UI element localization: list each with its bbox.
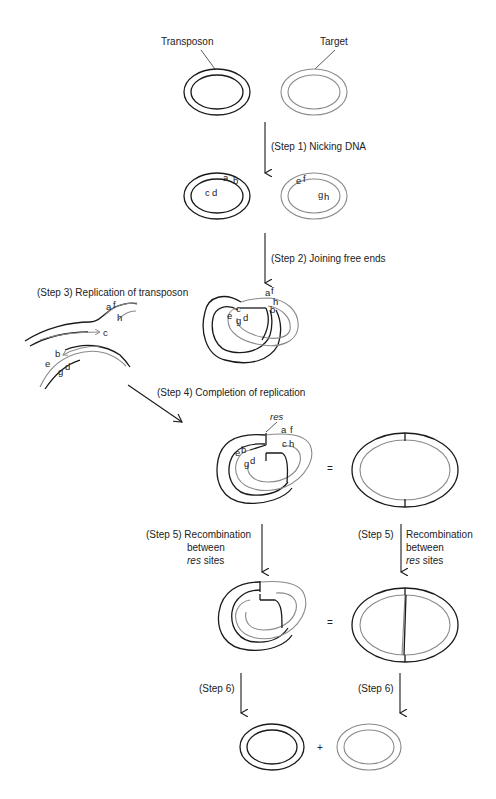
nicked-target: e f g h: [281, 173, 347, 219]
step6-left-label: (Step 6): [199, 683, 235, 694]
svg-text:h: h: [289, 438, 294, 449]
equals-sign-2: =: [327, 617, 333, 628]
svg-text:c: c: [205, 187, 210, 198]
svg-text:b: b: [55, 348, 60, 359]
svg-text:h: h: [324, 191, 329, 202]
recombined-simplified: [352, 588, 458, 662]
transposon-label: Transposon: [161, 36, 213, 47]
product-transposon: [240, 724, 304, 770]
svg-text:res: res: [270, 411, 283, 422]
svg-text:d: d: [250, 455, 255, 466]
svg-text:f: f: [303, 173, 306, 184]
product-target: [337, 724, 401, 770]
nicked-transposon: a b c d: [184, 172, 250, 219]
svg-text:e: e: [227, 310, 232, 321]
step5-right-label-3: between: [406, 542, 444, 553]
replication-fork: a f h c b e g d: [25, 299, 137, 389]
target-label: Target: [320, 36, 348, 47]
svg-text:f: f: [113, 299, 116, 310]
svg-text:d: d: [212, 187, 217, 198]
svg-text:e: e: [45, 358, 50, 369]
svg-text:b: b: [233, 175, 238, 186]
equals-sign-1: =: [327, 463, 333, 474]
recombined-structure: [218, 581, 305, 650]
svg-text:a: a: [223, 172, 229, 183]
step5-right-label-1: (Step 5): [358, 529, 394, 540]
plus-sign: +: [317, 742, 323, 753]
svg-text:d: d: [65, 361, 70, 372]
svg-text:e: e: [296, 175, 301, 186]
svg-text:h: h: [117, 312, 122, 323]
svg-text:g: g: [236, 315, 241, 326]
step5-left-label-1: (Step 5) Recombination: [146, 529, 251, 540]
step4-label: (Step 4) Completion of replication: [157, 387, 305, 398]
svg-text:b: b: [241, 444, 246, 455]
target-label-group: Target: [315, 36, 348, 69]
cointegrate: res a f c h e b g d: [217, 411, 312, 503]
step6-right-label: (Step 6): [358, 683, 394, 694]
joined-structure: a f h b c e g d: [203, 285, 298, 363]
step1-label: (Step 1) Nicking DNA: [271, 141, 366, 152]
svg-text:c: c: [103, 327, 108, 338]
step5-right-label-2: Recombination: [406, 529, 473, 540]
svg-text:g: g: [244, 458, 249, 469]
svg-text:c: c: [236, 303, 241, 314]
svg-text:a: a: [281, 424, 287, 435]
svg-text:c: c: [282, 438, 287, 449]
transposition-diagram: Transposon Target (Step 1) Nicking DNA a…: [0, 0, 496, 799]
transposon-label-group: Transposon: [161, 36, 215, 69]
svg-text:d: d: [243, 312, 248, 323]
step5-left-label-2: between: [187, 542, 225, 553]
svg-text:e: e: [235, 447, 240, 458]
step3-label: (Step 3) Replication of transposon: [37, 287, 188, 298]
svg-text:f: f: [271, 285, 274, 296]
cointegrate-simplified: [352, 433, 458, 507]
svg-text:f: f: [290, 424, 293, 435]
step5-right-label-4: res sites: [406, 555, 443, 566]
svg-text:g: g: [58, 366, 63, 377]
svg-text:a: a: [106, 301, 112, 312]
transposon-plasmid: [184, 69, 250, 115]
svg-text:b: b: [270, 304, 275, 315]
target-plasmid: [281, 69, 347, 115]
step2-label: (Step 2) Joining free ends: [271, 253, 386, 264]
svg-text:g: g: [318, 189, 323, 200]
step5-left-label-3: res sites: [187, 555, 224, 566]
